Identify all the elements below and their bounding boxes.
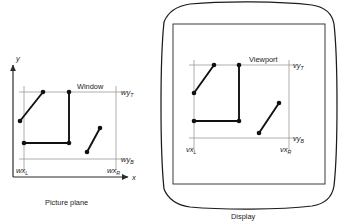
viewport-short-endpoint-a [257, 131, 262, 136]
display-caption: Display [231, 212, 256, 221]
window-bottom-bound-label: wyB [121, 155, 134, 165]
viewport-label: Viewport [249, 55, 278, 64]
viewport-corner-endpoint-left [192, 119, 197, 124]
window-right-bound-label: wxR [107, 166, 120, 176]
window-diagonal-endpoint-b [41, 90, 46, 95]
window-left-bound-label: wxL [16, 166, 28, 176]
x-axis-label: x [131, 173, 137, 182]
window-short-diagonal-stroke [87, 128, 100, 152]
window-corner-endpoint-left [22, 141, 27, 146]
window-corner-stroke [24, 92, 69, 143]
window-short-endpoint-b [98, 126, 103, 131]
viewport-diagonal-endpoint-b [212, 63, 217, 68]
window-diagonal-endpoint-a [18, 119, 23, 124]
figure-canvas: Viewport vyT vyB vxL vxR Display y x [0, 0, 343, 224]
window-top-bound-label: wyT [121, 88, 134, 98]
window-short-endpoint-a [85, 150, 90, 155]
viewport-corner-endpoint-mid [237, 119, 242, 124]
viewport-diagonal-endpoint-a [192, 91, 197, 96]
viewport-corner-endpoint-top [237, 63, 242, 68]
window-corner-endpoint-mid [67, 141, 72, 146]
display-screen-frame [173, 24, 325, 184]
viewport-short-endpoint-b [277, 101, 282, 106]
window-corner-endpoint-top [67, 90, 72, 95]
window-label: Window [77, 82, 104, 91]
window-viewport-diagram: Viewport vyT vyB vxL vxR Display y x [0, 0, 343, 224]
y-axis-label: y [15, 54, 21, 63]
picture-plane-caption: Picture plane [45, 198, 88, 207]
window-diagonal-stroke [20, 92, 43, 121]
